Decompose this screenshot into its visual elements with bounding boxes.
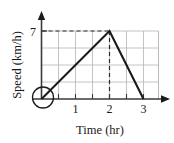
speed-time-chart: 7 1 2 3 Speed (km/h) Time (hr) bbox=[0, 0, 174, 143]
y-tick-label-7: 7 bbox=[30, 25, 36, 39]
chart-background bbox=[0, 0, 174, 143]
x-tick-label-3: 3 bbox=[141, 102, 147, 116]
x-axis-title: Time (hr) bbox=[76, 123, 124, 137]
x-tick-label-2: 2 bbox=[107, 102, 113, 116]
x-tick-label-1: 1 bbox=[73, 102, 79, 116]
chart-canvas: 7 1 2 3 Speed (km/h) Time (hr) bbox=[0, 0, 174, 143]
y-axis-title: Speed (km/h) bbox=[10, 31, 24, 99]
